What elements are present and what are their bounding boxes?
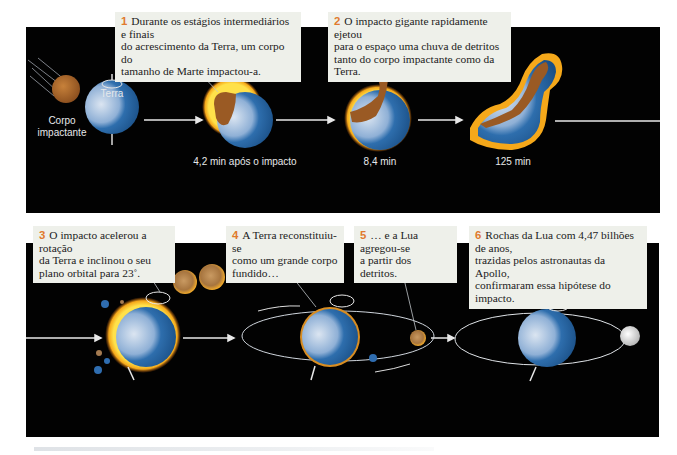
callout-5: 5… e a Lua agregou-se a partir dos detri…: [354, 226, 457, 283]
callout-2: 2O impacto gigante rapidamente ejetou pa…: [328, 12, 511, 82]
label-time-4-2: 4,2 min após o impacto: [190, 156, 300, 168]
figure-caption-faded: [34, 447, 434, 451]
callout-4: 4A Terra reconstituiu-se como um grande …: [226, 226, 344, 283]
impactor-body: [52, 75, 80, 103]
label-impactor: Corpo impactante: [34, 115, 90, 139]
label-time-8-4: 8,4 min: [355, 156, 405, 168]
callout-3: 3O impacto acelerou a rotação da Terra e…: [33, 226, 175, 283]
callout-6: 6Rochas da Lua com 4,47 bilhões de anos,…: [469, 226, 647, 309]
arrows-bottom: [26, 335, 454, 341]
callout-1: 1Durante os estágios intermediários e fi…: [115, 12, 301, 82]
label-earth: Terra: [92, 88, 132, 100]
label-time-125: 125 min: [488, 156, 538, 168]
